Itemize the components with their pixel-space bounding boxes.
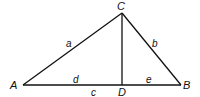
triangle-diagram: C A B D a b c d e — [0, 0, 200, 97]
vertex-label-a: A — [9, 79, 17, 91]
vertex-label-c: C — [117, 0, 125, 12]
segment-label-e: e — [146, 74, 152, 85]
segment-label-d: d — [73, 74, 79, 85]
segment-label-a: a — [66, 38, 72, 49]
segment-label-c: c — [91, 87, 96, 97]
segment-label-b: b — [152, 38, 158, 49]
vertex-label-b: B — [183, 79, 190, 91]
vertex-label-d: D — [118, 86, 126, 97]
